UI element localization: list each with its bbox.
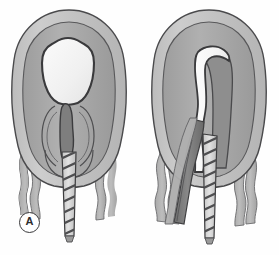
panel-a: A (0, 0, 139, 255)
panel-label-a: A (19, 212, 40, 233)
amniotic-sac-a (42, 38, 94, 105)
panel-b: B (140, 0, 279, 255)
figure-container: A (0, 0, 279, 255)
